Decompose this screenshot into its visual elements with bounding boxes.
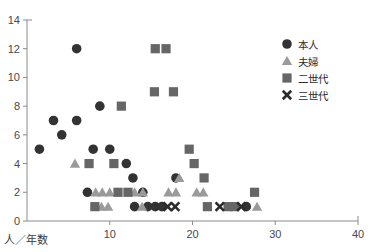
x-tick-label: 20 bbox=[186, 228, 198, 240]
data-point bbox=[109, 159, 118, 168]
data-point bbox=[198, 187, 208, 196]
data-point bbox=[151, 44, 160, 53]
data-point bbox=[105, 144, 115, 154]
chart-data-markers bbox=[35, 44, 263, 211]
y-tick-label: 8 bbox=[14, 100, 20, 112]
chart-legend: 本人夫婦二世代三世代 bbox=[282, 39, 329, 102]
data-point bbox=[171, 202, 179, 210]
scatter-chart: 0246810121410203040 本人夫婦二世代三世代 人／年数 bbox=[0, 0, 374, 252]
data-point bbox=[216, 202, 224, 210]
data-point bbox=[57, 130, 67, 140]
legend-marker-square bbox=[282, 73, 291, 82]
legend-item-x: 三世代 bbox=[283, 90, 329, 102]
legend-marker-triangle bbox=[282, 56, 292, 65]
data-point bbox=[169, 87, 178, 96]
legend-item-square: 二世代 bbox=[282, 73, 329, 85]
y-tick-label: 4 bbox=[14, 158, 20, 170]
data-point bbox=[72, 116, 82, 126]
y-tick-label: 6 bbox=[14, 129, 20, 141]
legend-label: 二世代 bbox=[298, 73, 329, 85]
y-tick-label: 2 bbox=[14, 186, 20, 198]
data-point bbox=[190, 159, 199, 168]
legend-item-triangle: 夫婦 bbox=[282, 56, 318, 68]
data-point bbox=[171, 187, 181, 196]
data-point bbox=[84, 159, 93, 168]
data-point bbox=[90, 202, 99, 211]
data-point bbox=[103, 202, 113, 211]
y-tick-label: 0 bbox=[14, 215, 20, 227]
data-point bbox=[70, 159, 80, 168]
data-point bbox=[252, 202, 262, 211]
legend-label: 本人 bbox=[298, 39, 319, 51]
x-tick-label: 30 bbox=[269, 228, 281, 240]
data-point bbox=[72, 44, 82, 54]
series-square bbox=[84, 44, 259, 211]
data-point bbox=[122, 159, 132, 169]
data-point bbox=[113, 188, 122, 197]
data-point bbox=[105, 187, 115, 196]
data-point bbox=[88, 144, 98, 154]
data-point bbox=[35, 144, 45, 154]
data-point bbox=[128, 173, 138, 183]
data-point bbox=[161, 44, 170, 53]
data-point bbox=[250, 188, 259, 197]
data-point bbox=[95, 101, 105, 111]
legend-label: 三世代 bbox=[298, 90, 329, 102]
x-tick-label: 10 bbox=[104, 228, 116, 240]
data-point bbox=[199, 173, 208, 182]
legend-item-circle: 本人 bbox=[282, 39, 319, 51]
y-tick-label: 10 bbox=[8, 71, 20, 83]
data-point bbox=[185, 145, 194, 154]
data-point bbox=[150, 87, 159, 96]
chart-canvas: 0246810121410203040 本人夫婦二世代三世代 人／年数 bbox=[0, 0, 374, 252]
y-tick-label: 12 bbox=[8, 43, 20, 55]
x-tick-label: 40 bbox=[352, 228, 364, 240]
x-axis-title: 人／年数 bbox=[4, 233, 48, 246]
data-point bbox=[117, 102, 126, 111]
data-point bbox=[203, 202, 212, 211]
legend-label: 夫婦 bbox=[298, 56, 318, 68]
data-point bbox=[123, 188, 132, 197]
data-point bbox=[49, 116, 59, 126]
series-circle bbox=[35, 44, 251, 211]
data-point bbox=[83, 188, 93, 198]
legend-marker-x bbox=[283, 91, 291, 99]
y-tick-label: 14 bbox=[8, 14, 20, 26]
legend-marker-circle bbox=[282, 39, 292, 49]
